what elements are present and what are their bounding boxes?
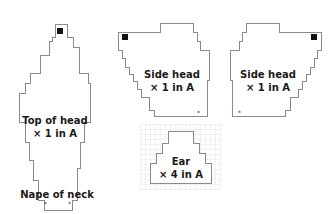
- ear-quantity: × 4 in A: [159, 169, 203, 180]
- dot-marker-icon: *: [238, 109, 241, 116]
- top-of-head-quantity: × 1 in A: [33, 128, 77, 139]
- piece-side-head-left: Side head × 1 in A *: [119, 24, 210, 117]
- nape-of-neck-label: Nape of neck: [20, 189, 94, 200]
- side-head-left-title: Side head: [144, 69, 200, 80]
- top-of-head-title: Top of head: [22, 115, 88, 126]
- start-square-icon: [122, 34, 128, 40]
- side-head-right-title: Side head: [240, 69, 296, 80]
- side-head-right-quantity: × 1 in A: [246, 82, 290, 93]
- dot-marker-icon: *: [44, 200, 47, 207]
- dot-marker-icon: *: [197, 109, 200, 116]
- piece-side-head-right: Side head × 1 in A *: [231, 24, 322, 117]
- piece-top-of-head: Top of head × 1 in A Nape of neck * *: [20, 25, 95, 211]
- start-square-icon: [57, 28, 63, 34]
- start-square-icon: [311, 34, 317, 40]
- dot-marker-icon: *: [68, 200, 71, 207]
- side-head-left-quantity: × 1 in A: [150, 82, 194, 93]
- pattern-diagram: Top of head × 1 in A Nape of neck * * Si…: [0, 0, 334, 214]
- ear-title: Ear: [172, 156, 191, 167]
